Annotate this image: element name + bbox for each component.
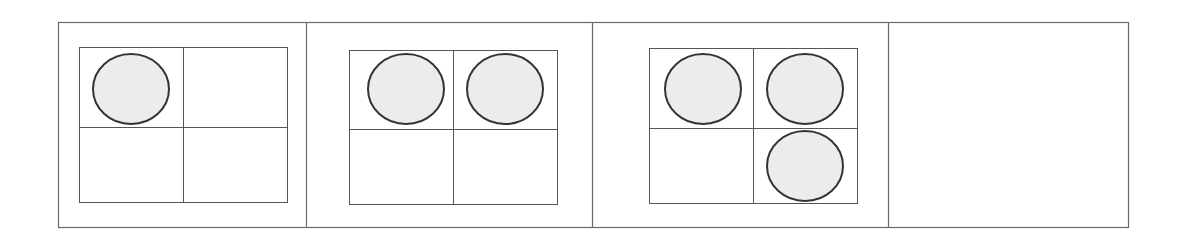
panel-2	[350, 51, 558, 205]
circle-token	[665, 54, 741, 124]
panel-3	[650, 49, 858, 204]
panel-1	[80, 48, 288, 203]
outer-frame	[59, 23, 1129, 228]
circle-token	[767, 54, 843, 124]
circle-token	[767, 131, 843, 201]
circle-token	[93, 54, 169, 124]
circle-token	[467, 54, 543, 124]
circle-token	[368, 54, 444, 124]
